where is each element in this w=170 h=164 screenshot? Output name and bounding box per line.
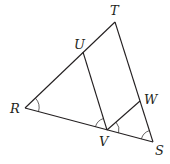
segment-TS xyxy=(115,22,153,142)
label-V: V xyxy=(99,134,110,149)
label-W: W xyxy=(144,92,159,107)
angle-mark-UVR xyxy=(95,119,103,127)
angle-mark-WVS xyxy=(116,122,119,133)
label-S: S xyxy=(155,143,164,158)
angle-mark-R xyxy=(35,98,39,112)
segment-RT xyxy=(25,22,115,108)
segment-VW xyxy=(107,101,140,130)
triangle-diagram: T U R W V S xyxy=(0,0,170,164)
label-R: R xyxy=(9,101,20,116)
label-T: T xyxy=(110,3,120,18)
segment-RS xyxy=(25,108,153,142)
angle-mark-S xyxy=(141,131,149,139)
label-U: U xyxy=(74,37,86,52)
